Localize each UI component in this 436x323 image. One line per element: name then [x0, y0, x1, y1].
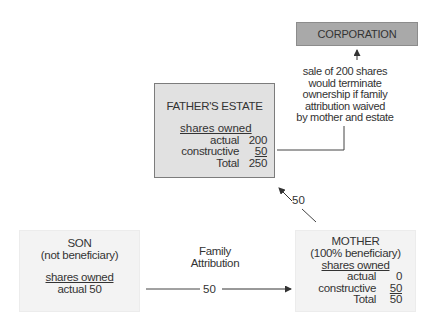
son-box: SON (not beneficiary) shares owned actua…	[19, 230, 140, 312]
sale-note: sale of 200 shares would terminate owner…	[270, 66, 420, 124]
son-actual: actual 50	[20, 283, 139, 295]
family-attribution-label: Family Attribution	[170, 245, 260, 269]
son-subtitle: (not beneficiary)	[20, 249, 139, 261]
estate-row-constructive: constructive 50	[165, 146, 274, 158]
corporation-label: CORPORATION	[318, 28, 397, 40]
corporation-box: CORPORATION	[296, 22, 418, 46]
mother-box: MOTHER (100% beneficiary) shares owned a…	[295, 230, 416, 312]
son-title: SON	[20, 237, 139, 249]
mother-row-total: Total 50	[304, 294, 415, 306]
estate-shares-heading: shares owned	[180, 122, 252, 134]
note-line: sale of 200 shares	[270, 66, 420, 78]
mother-subtitle: (100% beneficiary)	[296, 247, 415, 259]
mother-to-estate-value: 50	[292, 194, 305, 206]
note-line: ownership if family	[270, 89, 420, 101]
son-shares-heading: shares owned	[20, 271, 139, 283]
estate-row-total: Total 250	[165, 158, 274, 170]
son-to-mother-value: 50	[203, 283, 216, 295]
estate-title: FATHER'S ESTATE	[155, 100, 274, 112]
note-line: by mother and estate	[270, 112, 420, 124]
mother-title: MOTHER	[296, 235, 415, 247]
fathers-estate-box: FATHER'S ESTATE shares owned actual 200 …	[154, 83, 275, 178]
